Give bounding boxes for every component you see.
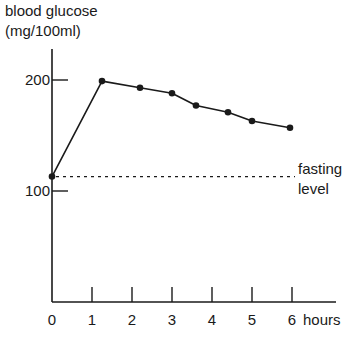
y-tick-label: 200 bbox=[25, 71, 50, 88]
line-chart: fastinglevel 0123456hours100200 bbox=[0, 0, 361, 343]
data-point bbox=[137, 84, 144, 91]
glucose-series bbox=[49, 78, 294, 180]
fasting-label: fasting bbox=[298, 160, 342, 177]
x-axis-label: hours bbox=[303, 311, 341, 328]
x-tick-label: 4 bbox=[208, 311, 216, 328]
data-point bbox=[99, 78, 106, 85]
x-tick-label: 5 bbox=[248, 311, 256, 328]
x-tick-label: 2 bbox=[128, 311, 136, 328]
fasting-level-line: fastinglevel bbox=[56, 160, 342, 197]
x-tick-label: 1 bbox=[88, 311, 96, 328]
data-point bbox=[49, 173, 56, 180]
level-label: level bbox=[298, 180, 329, 197]
data-point bbox=[249, 118, 256, 125]
y-tick-label: 100 bbox=[25, 182, 50, 199]
data-point bbox=[225, 109, 232, 116]
data-point bbox=[287, 124, 294, 131]
tick-labels: 0123456hours100200 bbox=[25, 71, 341, 328]
data-point bbox=[193, 102, 200, 109]
x-tick-label: 0 bbox=[48, 311, 56, 328]
x-tick-label: 6 bbox=[288, 311, 296, 328]
data-point bbox=[169, 90, 176, 97]
x-tick-label: 3 bbox=[168, 311, 176, 328]
axes bbox=[52, 49, 336, 302]
